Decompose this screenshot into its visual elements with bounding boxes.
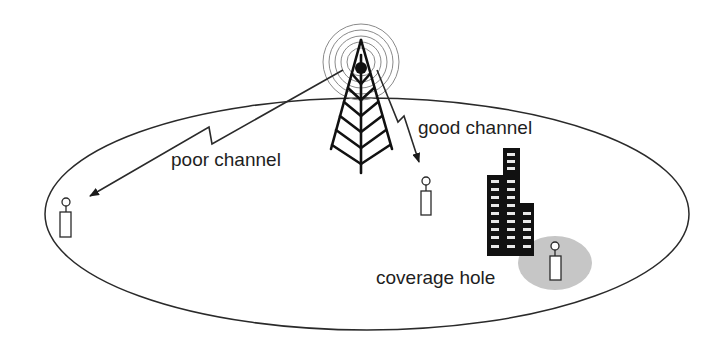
building-icon [487, 148, 534, 256]
cell-boundary [45, 98, 689, 330]
coverage-hole-label: coverage hole [376, 268, 495, 287]
coverage-diagram [0, 0, 724, 347]
good-channel-label: good channel [418, 118, 532, 137]
mobile-user-center-icon [421, 177, 431, 215]
poor-channel-label: poor channel [171, 150, 281, 169]
poor-channel-arrow [90, 70, 343, 196]
radio-tower-icon [331, 40, 392, 173]
mobile-user-far-left-icon [60, 198, 71, 237]
antenna-dot [355, 62, 367, 74]
